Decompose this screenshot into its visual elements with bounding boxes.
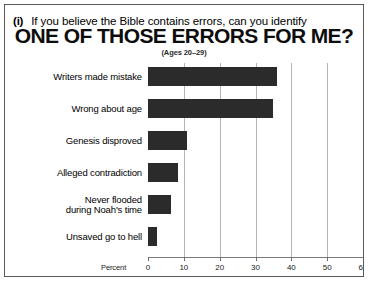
chart-header: (i)If you believe the Bible contains err…	[5, 5, 363, 59]
chart-figure: (i)If you believe the Bible contains err…	[4, 4, 364, 277]
chart-title: ONE OF THOSE ERRORS FOR ME?	[5, 24, 363, 48]
gridline	[184, 63, 185, 257]
bar	[148, 227, 157, 246]
bar	[148, 163, 178, 182]
x-tick-label: 10	[173, 263, 195, 272]
gridline	[220, 63, 221, 257]
category-label: Alleged contradiction	[9, 168, 142, 179]
bar	[148, 131, 187, 150]
category-label: Never floodedduring Noah's time	[9, 195, 142, 216]
gridline	[363, 63, 364, 257]
chart-subtitle: (Ages 20–29)	[5, 48, 363, 57]
plot-wrapper: Percent 0102030405060Writers made mistak…	[5, 60, 363, 276]
x-tick-label: 30	[245, 263, 267, 272]
gridline	[327, 63, 328, 257]
category-label: Unsaved go to hell	[9, 232, 142, 243]
x-axis-label: Percent	[101, 263, 126, 272]
x-tick-mark	[148, 257, 149, 261]
category-label: Genesis disproved	[9, 136, 142, 147]
x-tick-label: 0	[137, 263, 159, 272]
x-tick-mark	[256, 257, 257, 261]
x-tick-label: 50	[316, 263, 338, 272]
x-tick-mark	[220, 257, 221, 261]
category-label: Wrong about age	[9, 104, 142, 115]
x-tick-label: 20	[209, 263, 231, 272]
plot-area	[148, 63, 363, 257]
gridline	[256, 63, 257, 257]
gridline	[291, 63, 292, 257]
x-tick-label: 60	[352, 263, 364, 272]
x-tick-mark	[184, 257, 185, 261]
x-tick-mark	[291, 257, 292, 261]
x-tick-mark	[363, 257, 364, 261]
bar	[148, 195, 171, 214]
bar	[148, 67, 277, 86]
category-label: Writers made mistake	[9, 72, 142, 83]
x-tick-label: 40	[280, 263, 302, 272]
x-tick-mark	[327, 257, 328, 261]
bar	[148, 99, 273, 118]
